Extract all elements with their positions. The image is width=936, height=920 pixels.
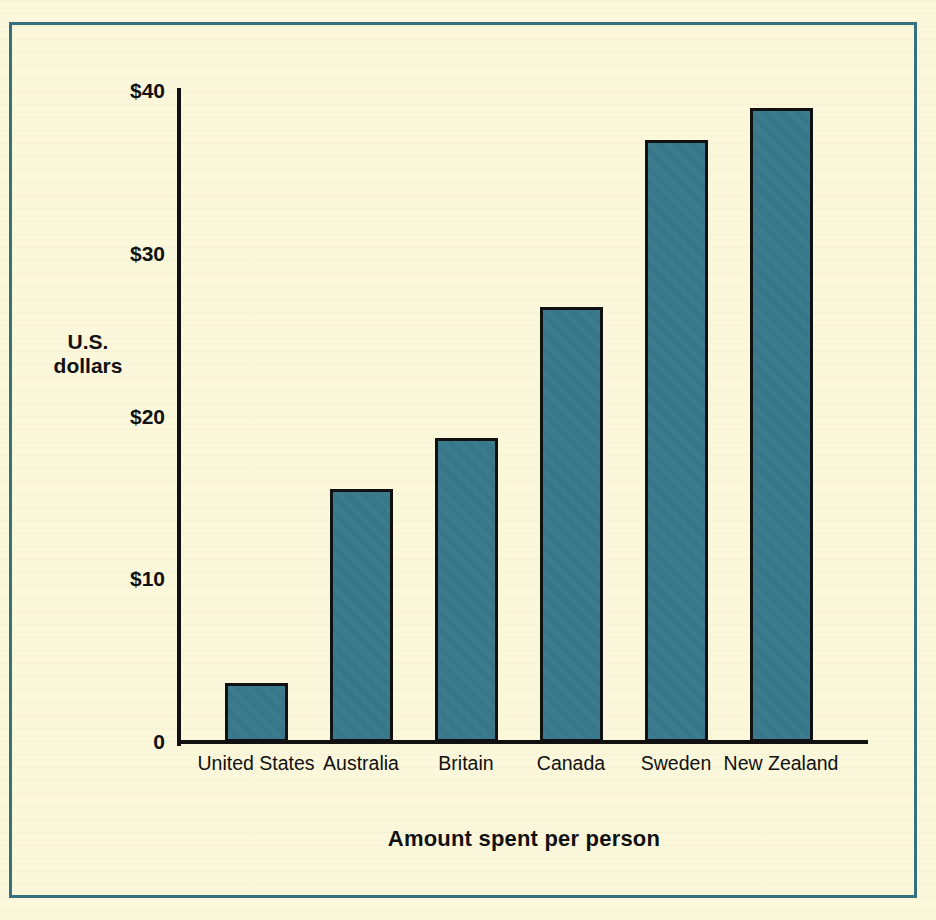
y-tick-label-20: $20 bbox=[55, 405, 165, 429]
x-tick-label-britain: Britain bbox=[438, 752, 493, 775]
x-tick-label-australia: Australia bbox=[323, 752, 399, 775]
y-axis-title: U.S. dollars bbox=[28, 330, 148, 378]
x-tick-label-united-states: United States bbox=[197, 752, 314, 775]
y-tick-label-10: $10 bbox=[55, 567, 165, 591]
x-tick-label-canada: Canada bbox=[537, 752, 605, 775]
plot-area bbox=[180, 88, 868, 742]
bar-sweden[interactable] bbox=[645, 140, 708, 742]
bar-united-states[interactable] bbox=[225, 683, 288, 742]
y-tick-label-40: $40 bbox=[55, 79, 165, 103]
bar-britain[interactable] bbox=[435, 438, 498, 742]
bar-canada[interactable] bbox=[540, 307, 603, 742]
x-tick-label-new-zealand: New Zealand bbox=[724, 752, 839, 775]
y-tick-label-0: 0 bbox=[55, 730, 165, 754]
y-tick-label-30: $30 bbox=[55, 242, 165, 266]
bar-australia[interactable] bbox=[330, 489, 393, 742]
x-axis-title: Amount spent per person bbox=[180, 826, 868, 852]
x-tick-label-sweden: Sweden bbox=[641, 752, 711, 775]
bar-new-zealand[interactable] bbox=[750, 108, 813, 742]
y-axis-title-line-1: U.S. bbox=[28, 330, 148, 354]
page-background: per capita U.S. dollars $40 $30 $20 $10 … bbox=[0, 0, 936, 920]
y-axis-title-line-2: dollars bbox=[28, 354, 148, 378]
